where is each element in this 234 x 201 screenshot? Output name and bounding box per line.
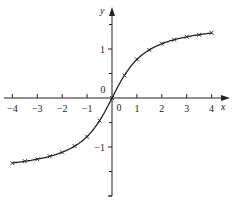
x-tick-label: −1: [82, 103, 93, 114]
tick-labels: xy−4−3−2−11234−1100: [7, 5, 226, 153]
x-tick-label: −3: [32, 103, 43, 114]
origin-label-x: 0: [117, 102, 122, 113]
x-tick-label: 1: [134, 103, 139, 114]
x-tick-label: 2: [159, 103, 164, 114]
x-tick-label: −2: [57, 103, 68, 114]
x-tick-label: −4: [7, 103, 18, 114]
origin-label-y: 0: [101, 84, 106, 95]
y-axis-label: y: [99, 5, 105, 16]
y-tick-label: −1: [94, 142, 105, 153]
x-marker-icon: [85, 135, 89, 139]
x-tick-label: 4: [209, 103, 214, 114]
y-tick-label: 1: [100, 44, 105, 55]
x-marker-icon: [122, 73, 126, 77]
x-marker-icon: [98, 119, 102, 123]
x-axis-label: x: [220, 101, 226, 112]
x-tick-label: 3: [184, 103, 189, 114]
x-marker-icon: [135, 57, 139, 61]
chart: xy−4−3−2−11234−1100: [0, 0, 234, 201]
y-axis-arrow-icon: [109, 7, 115, 16]
